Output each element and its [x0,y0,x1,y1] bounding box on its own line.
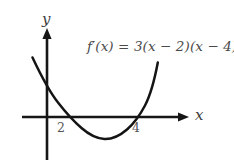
x-tick-label-4: 4 [132,122,140,135]
x-axis-arrow-icon [178,112,189,121]
figure-canvas [0,0,234,166]
function-annotation-label: f′(x) = 3(x − 2)(x − 4) [87,40,234,54]
x-axis-label: x [195,108,203,123]
derivative-parabola-figure: f′(x) = 3(x − 2)(x − 4) y x 2 4 [0,0,234,166]
y-axis-arrow-icon [42,28,51,39]
x-tick-label-2: 2 [57,122,65,135]
y-axis-label: y [42,12,50,27]
function-expression-text: f′(x) = 3(x − 2)(x − 4) [87,38,234,54]
